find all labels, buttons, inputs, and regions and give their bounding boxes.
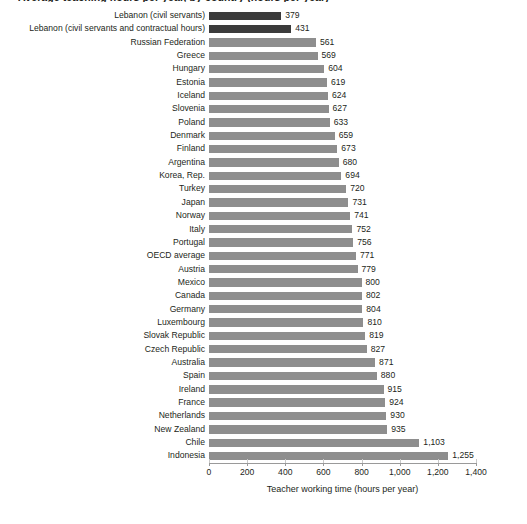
bar xyxy=(209,198,348,206)
chart-row: Finland673 xyxy=(0,142,527,155)
chart-page: Average teaching hours per year, by coun… xyxy=(0,0,527,524)
category-label: Denmark xyxy=(170,129,205,142)
category-label: Luxembourg xyxy=(157,316,205,329)
bar-value-label: 694 xyxy=(345,169,359,182)
bar xyxy=(209,372,377,380)
category-label: Finland xyxy=(177,142,205,155)
bar xyxy=(209,252,356,260)
category-label: Slovak Republic xyxy=(143,329,205,342)
category-label: OECD average xyxy=(147,249,205,262)
chart-row: Indonesia1,255 xyxy=(0,449,527,462)
category-label: Lebanon (civil servants and contractual … xyxy=(29,22,205,35)
chart-row: Lebanon (civil servants)379 xyxy=(0,9,527,22)
category-label: Argentina xyxy=(168,156,205,169)
bar-value-label: 804 xyxy=(366,303,380,316)
bar-value-label: 627 xyxy=(333,102,347,115)
bar xyxy=(209,385,384,393)
category-label: Iceland xyxy=(177,89,205,102)
x-axis: 02004006008001,0001,2001,400Teacher work… xyxy=(0,463,527,497)
x-axis-tick-inner xyxy=(362,459,363,463)
bar xyxy=(209,12,281,20)
bar-value-label: 752 xyxy=(356,223,370,236)
chart-row: Greece569 xyxy=(0,49,527,62)
chart-row: France924 xyxy=(0,396,527,409)
bar-value-label: 827 xyxy=(371,343,385,356)
bar xyxy=(209,345,367,353)
x-axis-tick-label: 200 xyxy=(240,467,254,478)
bar-value-label: 569 xyxy=(322,49,336,62)
x-axis-tick xyxy=(323,463,324,467)
category-label: Germany xyxy=(170,303,205,316)
chart-title: Average teaching hours per year, by coun… xyxy=(18,0,518,2)
x-axis-tick xyxy=(209,463,210,467)
bar xyxy=(209,412,386,420)
chart-row: Austria779 xyxy=(0,263,527,276)
x-axis-tick xyxy=(438,463,439,467)
category-label: Canada xyxy=(175,289,205,302)
bar xyxy=(209,78,327,86)
category-label: Chile xyxy=(185,436,205,449)
category-label: Japan xyxy=(182,196,205,209)
bar-value-label: 624 xyxy=(332,89,346,102)
bar xyxy=(209,132,335,140)
category-label: Estonia xyxy=(176,76,205,89)
bar-value-label: 659 xyxy=(339,129,353,142)
bar xyxy=(209,332,365,340)
x-axis-tick-label: 600 xyxy=(316,467,330,478)
x-axis-tick-inner xyxy=(323,459,324,463)
category-label: Poland xyxy=(178,116,205,129)
chart-row: Iceland624 xyxy=(0,89,527,102)
chart-row: Canada802 xyxy=(0,289,527,302)
chart-row: Argentina680 xyxy=(0,156,527,169)
bar-value-label: 800 xyxy=(366,276,380,289)
bar xyxy=(209,105,329,113)
category-label: Indonesia xyxy=(168,449,205,462)
bar xyxy=(209,278,362,286)
chart-row: Slovak Republic819 xyxy=(0,329,527,342)
chart-row: Spain880 xyxy=(0,369,527,382)
x-axis-tick-inner xyxy=(209,459,210,463)
bar xyxy=(209,439,419,447)
bar xyxy=(209,358,375,366)
category-label: France xyxy=(178,396,205,409)
chart-row: Hungary604 xyxy=(0,62,527,75)
bar xyxy=(209,158,339,166)
bar xyxy=(209,172,341,180)
bar xyxy=(209,212,350,220)
category-label: Austria xyxy=(178,263,205,276)
bar-value-label: 379 xyxy=(285,9,299,22)
bar-value-label: 680 xyxy=(343,156,357,169)
bar xyxy=(209,265,358,273)
category-label: Australia xyxy=(172,356,205,369)
bar xyxy=(209,65,324,73)
bar-value-label: 810 xyxy=(367,316,381,329)
bar xyxy=(209,425,387,433)
bar xyxy=(209,185,346,193)
bar-value-label: 604 xyxy=(328,62,342,75)
bar xyxy=(209,52,318,60)
x-axis-tick-label: 800 xyxy=(354,467,368,478)
bar-value-label: 431 xyxy=(295,22,309,35)
chart-row: Czech Republic827 xyxy=(0,343,527,356)
bar-value-label: 561 xyxy=(320,36,334,49)
category-label: Spain xyxy=(183,369,205,382)
bar xyxy=(209,318,363,326)
chart-row: Russian Federation561 xyxy=(0,36,527,49)
x-axis-tick xyxy=(476,463,477,467)
bar-value-label: 720 xyxy=(350,182,364,195)
chart-row: Germany804 xyxy=(0,303,527,316)
chart-row: Poland633 xyxy=(0,116,527,129)
chart-row: Italy752 xyxy=(0,223,527,236)
bar xyxy=(209,92,328,100)
bar-value-label: 802 xyxy=(366,289,380,302)
chart-row: Korea, Rep.694 xyxy=(0,169,527,182)
chart-row: Japan731 xyxy=(0,196,527,209)
x-axis-tick-label: 1,000 xyxy=(389,467,411,478)
bar-value-label: 673 xyxy=(341,142,355,155)
bar-value-label: 633 xyxy=(334,116,348,129)
bar-value-label: 924 xyxy=(389,396,403,409)
bar xyxy=(209,25,291,33)
x-axis-tick-inner xyxy=(247,459,248,463)
category-label: Turkey xyxy=(179,182,205,195)
bar xyxy=(209,38,316,46)
